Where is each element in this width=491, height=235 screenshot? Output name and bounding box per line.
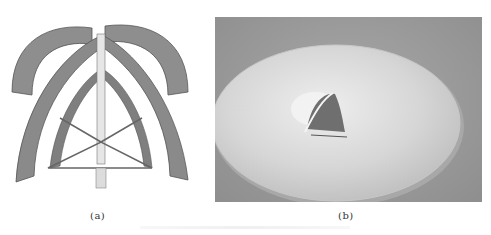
figure-panel-b [215, 17, 482, 202]
faint-figure-caption [140, 226, 350, 229]
caption-panel-b: (b) [338, 210, 354, 221]
disc-photo [215, 17, 482, 202]
caption-panel-a: (a) [90, 210, 105, 221]
arch-structure-diagram [0, 0, 210, 200]
figure-panel-a [0, 0, 210, 200]
